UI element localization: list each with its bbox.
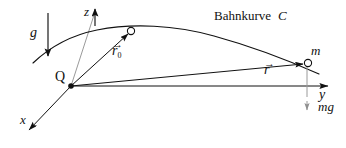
origin-label: Q xyxy=(55,70,65,84)
curve-caption-text: Bahnkurve xyxy=(214,8,271,23)
physics-trajectory-figure: g z y x Q m mg → r 0 → r BahnkurveC xyxy=(0,0,346,148)
vector-r-glyph-wrap: → r xyxy=(264,63,269,77)
point-marker-origin xyxy=(68,83,74,89)
point-marker-r0 xyxy=(127,27,134,34)
axis-x-label: x xyxy=(20,113,26,126)
vector-r0-subscript: 0 xyxy=(117,51,121,60)
figure-vector-graphics xyxy=(0,0,346,148)
point-marker-m xyxy=(304,59,311,66)
curve-caption: BahnkurveC xyxy=(214,9,287,22)
vector-r0-label: → r 0 xyxy=(112,44,121,58)
axis-z-label: z xyxy=(84,5,89,18)
curve-caption-symbol: C xyxy=(278,8,287,23)
vector-r0-arrow-glyph: → xyxy=(112,39,117,50)
mass-label: m xyxy=(311,44,320,57)
vector-r-label: → r xyxy=(264,63,269,77)
axis-x-line xyxy=(29,86,71,130)
vector-r-arrow-glyph: → xyxy=(264,58,269,69)
weight-force-label: mg xyxy=(318,100,334,113)
gravity-label: g xyxy=(30,26,37,40)
